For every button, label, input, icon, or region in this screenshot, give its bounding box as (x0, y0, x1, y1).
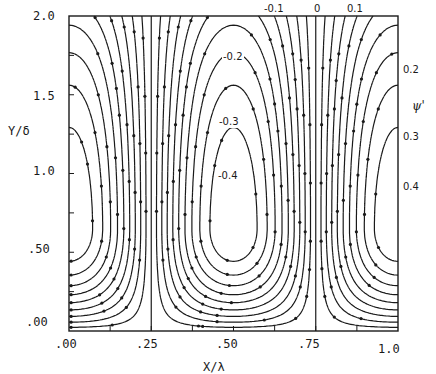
y-axis-label: Y/δ (8, 125, 30, 137)
contour-line (69, 127, 398, 261)
contour-label-0.2: 0.2 (402, 64, 420, 76)
axis-ticks (69, 55, 357, 331)
contour-line (69, 25, 398, 295)
contour-line (210, 127, 257, 261)
y-tick-0.50: .50 (28, 243, 50, 255)
x-tick-0.50: .50 (216, 338, 238, 350)
x-tick-0.00: .00 (55, 338, 77, 350)
x-axis-label: X/λ (203, 361, 225, 373)
x-tick-0.25: .25 (136, 338, 158, 350)
contour-label-0.3: 0.3 (402, 131, 420, 143)
y-tick-2.0: 2.0 (33, 10, 55, 22)
x-tick-0.75: .75 (298, 338, 320, 350)
contour-label-top-neg0.1: -0.1 (263, 3, 285, 15)
contour-label-neg0.4: -0.4 (217, 170, 239, 182)
contour-label-neg0.3: -0.3 (218, 116, 240, 128)
contour-line (185, 25, 282, 295)
contour-plot (0, 0, 436, 374)
x-tick-1.0: 1.0 (378, 343, 400, 355)
contour-label-neg0.2: -0.2 (222, 51, 244, 63)
y-tick-1.5: 1.5 (33, 90, 55, 102)
contour-label-top-0: 0 (313, 3, 321, 15)
y-tick-0.00: .00 (26, 316, 48, 328)
psi-legend-label: ψ' (412, 100, 425, 112)
contour-label-top-0.1: 0.1 (346, 3, 364, 15)
contour-label-0.4: 0.4 (402, 181, 420, 193)
y-tick-1.0: 1.0 (33, 165, 55, 177)
